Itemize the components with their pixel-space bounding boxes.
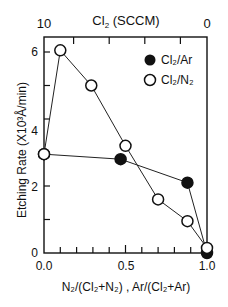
data-point [153,194,164,205]
y-tick-2: 2 [31,180,38,194]
data-point [86,80,97,91]
etching-rate-chart: 10 0 Cl2 (SCCM) 0 2 4 6 0.0 0.5 1.0 N₂/(… [0,0,228,307]
y-tick-0: 0 [31,246,38,260]
top-axis-title: Cl2 (SCCM) [92,13,159,30]
x-tick-0: 0.0 [36,259,53,273]
top-tick-right: 0 [203,16,210,31]
legend-marker-ar [145,55,156,66]
data-point [115,154,126,165]
data-point [39,149,50,160]
y-axis-label: Etching Rate (X10³Å/min) [14,82,29,218]
axis-ticks [44,37,191,253]
legend-marker-n2 [145,75,156,86]
legend-label-ar: Cl₂/Ar [161,53,192,67]
x-axis-label: N₂/(Cl₂+N₂) , Ar/(Cl₂+Ar) [62,280,191,294]
top-tick-left: 10 [37,16,51,31]
data-point [182,216,193,227]
y-tick-6: 6 [31,45,38,59]
data-point [182,177,193,188]
legend-label-n2: Cl₂/N₂ [161,73,194,87]
data-point [120,140,131,151]
x-tick-1: 1.0 [199,259,216,273]
data-point [202,242,213,253]
x-tick-05: 0.5 [118,259,135,273]
y-tick-4: 4 [31,124,38,138]
data-point [55,45,66,56]
